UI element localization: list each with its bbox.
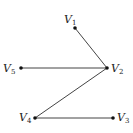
vertex-label-subscript: 1 [72,19,76,27]
vertex-label-base: V [3,62,11,75]
vertex-label-subscript: 3 [125,117,129,125]
vertex-label-v4: V4 [19,112,31,125]
vertex-label-base: V [19,111,27,124]
vertex-v2 [105,66,109,70]
vertex-label-base: V [117,111,125,124]
vertex-label-v1: V1 [64,14,76,27]
edge-v1-v2 [75,28,107,68]
vertex-label-v5: V5 [3,63,15,76]
edges [21,28,113,118]
vertex-label-subscript: 2 [119,68,123,76]
vertex-label-v3: V3 [117,112,129,125]
vertex-label-subscript: 5 [11,68,15,76]
vertex-label-base: V [111,62,119,75]
vertex-label-v2: V2 [111,63,123,76]
vertex-v4 [33,116,37,120]
edge-v2-v4 [35,68,107,118]
vertex-v5 [19,66,23,70]
vertex-label-base: V [64,13,72,26]
vertex-label-subscript: 4 [27,117,31,125]
vertex-v3 [111,116,115,120]
